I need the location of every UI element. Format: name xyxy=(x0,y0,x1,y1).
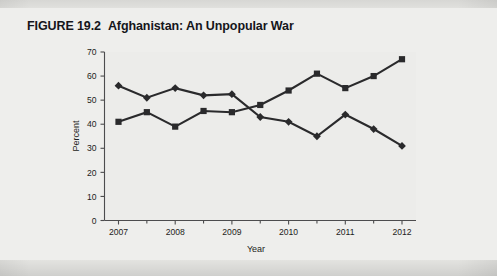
y-tick-label: 10 xyxy=(87,192,97,202)
x-tick-label: 2008 xyxy=(166,227,185,237)
x-tick-label: 2007 xyxy=(109,227,128,237)
data-point-marker xyxy=(314,71,320,77)
y-axis-ticks: 010203040506070 xyxy=(87,47,105,226)
y-tick-label: 40 xyxy=(87,119,97,129)
x-tick-label: 2012 xyxy=(392,227,411,237)
data-point-marker xyxy=(200,108,206,114)
x-tick-label: 2010 xyxy=(279,227,298,237)
data-point-marker xyxy=(371,73,377,79)
y-tick-label: 60 xyxy=(87,71,97,81)
x-tick-label: 2011 xyxy=(336,227,355,237)
x-axis-ticks: 200720082009201020112012 xyxy=(109,221,412,237)
data-point-marker xyxy=(144,109,150,115)
x-tick-label: 2009 xyxy=(222,227,241,237)
chart-container: 010203040506070 200720082009201020112012… xyxy=(0,44,497,260)
y-tick-label: 50 xyxy=(87,95,97,105)
data-point-marker xyxy=(399,56,405,62)
data-point-marker xyxy=(257,102,263,108)
y-tick-label: 70 xyxy=(87,47,97,57)
line-chart: 010203040506070 200720082009201020112012… xyxy=(0,44,497,260)
data-point-marker xyxy=(286,87,292,93)
figure-caption: FIGURE 19.2Afghanistan: An Unpopular War xyxy=(27,19,294,33)
y-tick-label: 30 xyxy=(87,143,97,153)
y-tick-label: 0 xyxy=(92,216,97,226)
y-tick-label: 20 xyxy=(87,168,97,178)
figure-title: Afghanistan: An Unpopular War xyxy=(108,19,294,33)
data-point-marker xyxy=(229,109,235,115)
y-axis-title: Percent xyxy=(71,120,81,152)
data-point-marker xyxy=(172,124,178,130)
x-axis-title: Year xyxy=(247,244,265,254)
figure-number: FIGURE 19.2 xyxy=(27,19,101,33)
data-point-marker xyxy=(342,85,348,91)
data-point-marker xyxy=(115,119,121,125)
